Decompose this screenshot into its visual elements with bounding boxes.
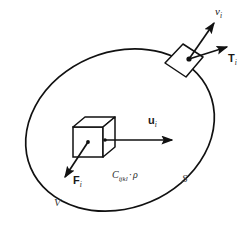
continuum-body-figure: vi Ti ui Fi Cijkl·ρ S V <box>0 0 250 233</box>
velocity-subscript: i <box>220 11 222 20</box>
displacement-label: ui <box>148 115 157 129</box>
surface-element-patch <box>165 44 203 77</box>
body-force-label: Fi <box>73 175 82 189</box>
stiffness-subscript: ijkl <box>119 175 128 183</box>
volume-label: V <box>54 197 61 208</box>
figure-canvas <box>0 0 250 233</box>
displacement-subscript: i <box>155 120 157 129</box>
body-force-subscript: i <box>80 180 82 189</box>
stiffness-symbol: C <box>112 169 119 180</box>
velocity-vector-arrow <box>189 23 214 59</box>
ellipse-boundary <box>0 20 240 233</box>
body-force-symbol: F <box>73 174 80 186</box>
velocity-label: vi <box>215 6 222 20</box>
density-symbol: ρ <box>133 169 138 180</box>
traction-label: Ti <box>228 53 237 67</box>
traction-symbol: T <box>228 52 235 64</box>
traction-subscript: i <box>235 58 237 67</box>
displacement-symbol: u <box>148 114 155 126</box>
volume-element-cube <box>73 117 115 157</box>
surface-label: S <box>182 173 188 184</box>
material-properties-label: Cijkl·ρ <box>112 170 138 183</box>
